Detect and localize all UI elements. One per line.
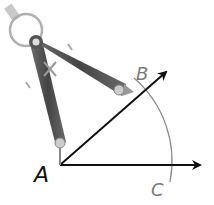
label-C: C [151,179,164,200]
compass-icon [4,4,134,165]
diagram-canvas: A B C [0,0,214,205]
label-A: A [32,162,49,187]
construction-arc [134,78,172,182]
label-B: B [136,63,148,84]
